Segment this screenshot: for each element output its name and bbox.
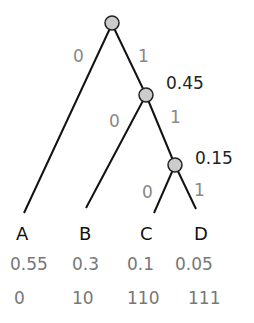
leaf-prob-A: 0.55 [10, 254, 48, 274]
edge-label-n015-D: 1 [194, 180, 205, 200]
leaf-code-A: 0 [14, 288, 25, 308]
leaf-name-A: A [16, 223, 29, 244]
edge-label-root-n045: 1 [138, 46, 149, 66]
edge-n015-C [154, 165, 175, 213]
node-n015 [168, 158, 182, 172]
edge-label-root-A: 0 [73, 46, 84, 66]
edge-label-n045-n015: 1 [170, 107, 181, 127]
node-value-n045: 0.45 [166, 73, 204, 93]
leaf-prob-D: 0.05 [175, 254, 213, 274]
leaf-prob-B: 0.3 [72, 254, 99, 274]
leaf-name-D: D [194, 223, 208, 244]
leaf-name-C: C [140, 223, 153, 244]
leaf-name-B: B [79, 223, 91, 244]
leaf-code-C: 110 [127, 288, 159, 308]
edge-label-n015-C: 0 [142, 182, 153, 202]
leaf-code-B: 10 [72, 288, 94, 308]
edge-n045-n015 [146, 95, 175, 165]
leaf-prob-C: 0.1 [127, 254, 154, 274]
node-value-n015: 0.15 [195, 148, 233, 168]
node-n045 [139, 88, 153, 102]
node-root [105, 16, 119, 30]
huffman-tree-diagram: 0 1 0 1 0 1 0.45 0.15 A B C D 0.55 0.3 0… [0, 0, 254, 323]
edge-label-n045-B: 0 [109, 111, 120, 131]
leaf-code-D: 111 [188, 288, 220, 308]
